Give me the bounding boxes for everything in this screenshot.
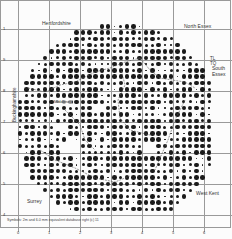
y-tick-label: 5 xyxy=(3,182,5,186)
y-tick-label: 8 xyxy=(3,89,5,93)
y-tick-label: 9 xyxy=(3,58,5,62)
map-caption: Symbols: 2m and 6.0 mm equivalent databa… xyxy=(7,218,99,222)
x-tick-label: 1 xyxy=(48,231,50,235)
x-tick-label: 5 xyxy=(172,231,174,235)
x-tick-label: 0 xyxy=(17,231,19,235)
label-south-essex-line2: Essex xyxy=(212,72,226,77)
y-tick-label: 4 xyxy=(3,213,5,217)
label-west-kent: West Kent xyxy=(196,191,219,196)
x-tick-label: 6 xyxy=(203,231,205,235)
y-tick-label: 1 xyxy=(3,27,5,31)
x-tick-label: 3 xyxy=(110,231,112,235)
label-surrey: Surrey xyxy=(27,199,42,204)
label-buckinghamshire: Buckinghamshire xyxy=(12,87,17,122)
label-hertfordshire: Hertfordshire xyxy=(42,21,71,26)
distribution-map: Hertfordshire North Essex South Essex TL… xyxy=(0,0,232,239)
label-grid-tq: TQ xyxy=(210,62,216,67)
label-middlesex: Middlesex xyxy=(54,100,72,104)
y-tick-label: 7 xyxy=(3,120,5,124)
label-north-essex: North Essex xyxy=(184,24,211,29)
x-tick-label: 2 xyxy=(79,231,81,235)
y-tick-label: 6 xyxy=(3,151,5,155)
x-tick-label: 4 xyxy=(141,231,143,235)
